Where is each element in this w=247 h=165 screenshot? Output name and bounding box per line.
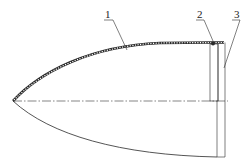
shell-part-1	[13, 43, 224, 102]
joint-part-2	[210, 42, 218, 102]
label-2: 2	[197, 8, 203, 20]
label-1: 1	[105, 8, 111, 20]
joint-detail	[211, 42, 215, 46]
lower-profile	[13, 101, 217, 157]
leader-line-2	[196, 20, 213, 41]
label-3: 3	[234, 8, 240, 20]
leader-line-3	[224, 20, 240, 68]
nose-cone-diagram: 1 2 3	[0, 0, 247, 165]
end-ring-part-3	[217, 43, 225, 158]
